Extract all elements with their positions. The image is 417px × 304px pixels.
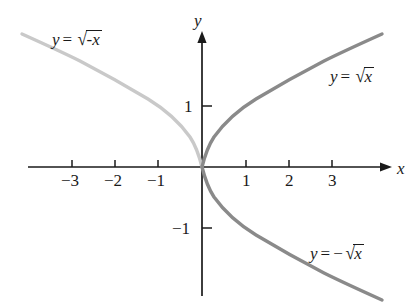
annotation-neg-sqrt-x: y=−√x (310, 243, 363, 262)
radicand-upper-right-text: x (365, 67, 373, 86)
curve-sqrt-neg-x (22, 34, 202, 167)
y-tick-label-neg1: −1 (172, 220, 190, 237)
x-axis (28, 162, 392, 171)
radical-upper-right: √x (353, 66, 373, 85)
x-tick-label-2: 2 (285, 172, 294, 189)
radical-lower-right: √x (343, 243, 363, 262)
annotation-sqrt-x: y=√x (330, 66, 373, 85)
x-axis-label: x (397, 160, 405, 177)
annotation-left-y: y (52, 30, 60, 49)
figure-canvas: x y −3 −2 −1 1 2 3 1 −1 y=√-x y=√x y=−√x (0, 0, 417, 304)
annotation-lower-right-y: y (310, 244, 318, 263)
annotation-sqrt-neg-x: y=√-x (52, 29, 101, 48)
annotation-upper-right-y: y (330, 67, 338, 86)
radicand-upper-right: x (365, 68, 374, 85)
annotation-left-equals: = (60, 30, 76, 49)
radicand-left: -x (87, 31, 101, 48)
radical-bar (353, 244, 364, 245)
x-tick-label-neg2: −2 (104, 172, 122, 189)
x-tick-label-3: 3 (328, 172, 337, 189)
curve-sqrt-x (202, 34, 382, 167)
y-tick-label-1: 1 (184, 98, 193, 115)
annotation-upper-right-equals: = (338, 67, 354, 86)
x-tick-label-neg3: −3 (61, 172, 79, 189)
radical-bar (364, 67, 375, 68)
annotation-lower-right-equals: = (318, 244, 334, 263)
y-axis-label: y (194, 12, 202, 29)
radicand-lower-right-text: x (354, 244, 362, 263)
x-tick-label-1: 1 (242, 172, 251, 189)
radicand-lower-right: x (354, 245, 363, 262)
y-axis (38, 31, 207, 296)
annotation-lower-right-minus: − (333, 244, 343, 263)
x-tick-label-neg1: −1 (147, 172, 165, 189)
radical-bar (86, 30, 102, 31)
radicand-left-text: -x (87, 30, 100, 49)
radical-left: √-x (75, 29, 101, 48)
